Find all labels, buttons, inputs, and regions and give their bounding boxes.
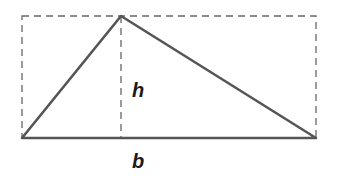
base-label: b bbox=[132, 150, 144, 172]
triangle-area-diagram: h b bbox=[0, 0, 341, 176]
triangle bbox=[22, 16, 316, 138]
height-label: h bbox=[132, 79, 144, 101]
bounding-rectangle bbox=[22, 16, 316, 138]
